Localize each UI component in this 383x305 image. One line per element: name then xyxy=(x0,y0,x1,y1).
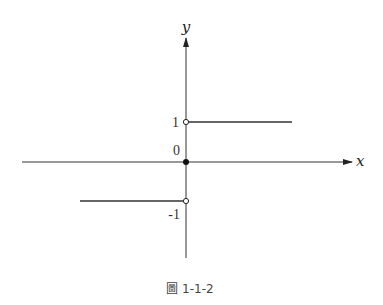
origin-label: 0 xyxy=(173,143,180,158)
open-dot-negative xyxy=(183,198,188,203)
origin-dot xyxy=(183,159,189,165)
tick-label-minus-one: -1 xyxy=(168,207,180,222)
open-dot-positive xyxy=(183,119,188,124)
tick-label-one: 1 xyxy=(172,115,179,130)
y-axis-label: y xyxy=(181,18,191,36)
sign-function-graph: y x 1 0 -1 圖 1-1-2 xyxy=(0,0,383,305)
figure-caption: 圖 1-1-2 xyxy=(166,282,213,296)
x-axis-label: x xyxy=(356,152,365,170)
